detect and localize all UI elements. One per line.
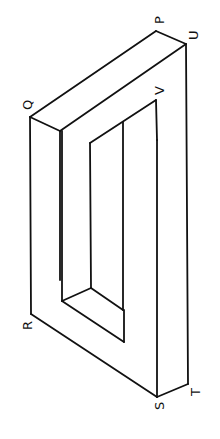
edge-q-p	[30, 31, 156, 117]
label-s: S	[152, 402, 167, 410]
label-t: T	[188, 388, 203, 397]
inner-left-edge	[90, 143, 91, 288]
inner-bottom-diagonal	[91, 288, 123, 310]
label-p: P	[152, 16, 167, 24]
vertex-labels: P U Q V R S T	[20, 16, 203, 410]
frame-diagram: P U Q V R S T	[0, 0, 220, 439]
inner-opening-edges	[62, 100, 157, 342]
outer-edges	[30, 31, 188, 397]
edge-q-front	[30, 117, 60, 131]
label-v: V	[152, 86, 167, 95]
edge-s-t	[157, 384, 188, 397]
inner-bottom-back	[62, 288, 91, 301]
label-r: R	[20, 321, 35, 330]
label-u: U	[186, 30, 201, 40]
frame-diagram-svg: P U Q V R S T	[0, 0, 220, 439]
inner-bottom-front	[62, 301, 124, 342]
label-q: Q	[20, 100, 35, 110]
edge-r-s	[31, 314, 157, 397]
edge-q-r	[30, 117, 31, 314]
edge-p-u	[156, 31, 186, 44]
edge-u-t	[186, 44, 188, 384]
inner-right-top	[156, 100, 157, 140]
edge-front-top	[60, 44, 186, 131]
